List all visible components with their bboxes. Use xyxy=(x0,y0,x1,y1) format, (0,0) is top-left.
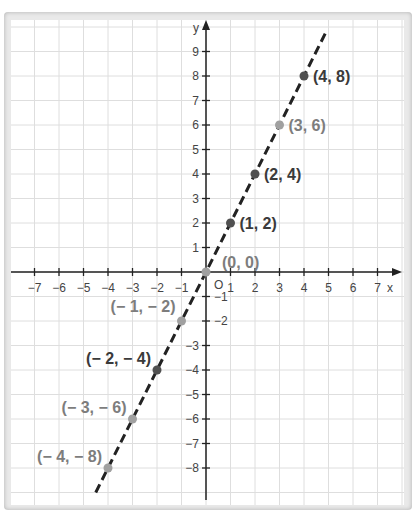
y-tick-label: −5 xyxy=(185,388,199,402)
data-point xyxy=(226,219,235,228)
data-point xyxy=(177,317,186,326)
x-tick-label: −5 xyxy=(77,281,91,295)
y-tick-label: 5 xyxy=(192,143,199,157)
x-tick-label: 2 xyxy=(252,281,259,295)
x-tick-label: 7 xyxy=(374,281,381,295)
x-tick-label: −4 xyxy=(101,281,115,295)
data-point xyxy=(275,121,284,130)
y-axis-label: y xyxy=(193,21,199,35)
point-label: (2, 4) xyxy=(264,166,301,183)
y-tick-label: −2 xyxy=(214,314,228,328)
y-tick-label: −4 xyxy=(185,363,199,377)
x-tick-label: 4 xyxy=(301,281,308,295)
x-tick-label: −2 xyxy=(150,281,164,295)
point-label: (3, 6) xyxy=(289,117,326,134)
point-label: (4, 8) xyxy=(313,68,350,85)
y-tick-label: −7 xyxy=(185,437,199,451)
point-label: (− 2, − 4) xyxy=(86,350,151,367)
x-tick-label: −1 xyxy=(175,281,189,295)
y-tick-label: −3 xyxy=(185,339,199,353)
data-point xyxy=(128,415,137,424)
x-tick-label: 6 xyxy=(350,281,357,295)
x-tick-label: −6 xyxy=(52,281,66,295)
point-label: (− 3, − 6) xyxy=(62,399,127,416)
x-tick-label: 5 xyxy=(325,281,332,295)
point-label: (− 1, − 2) xyxy=(111,298,176,315)
x-axis-label: x xyxy=(387,281,393,295)
data-point xyxy=(104,464,113,473)
x-tick-label: −3 xyxy=(126,281,140,295)
x-tick-label: 3 xyxy=(276,281,283,295)
y-tick-label: 9 xyxy=(192,45,199,59)
origin-label: O xyxy=(214,278,223,292)
y-tick-label: 8 xyxy=(192,69,199,83)
data-point xyxy=(153,366,162,375)
y-tick-label: 1 xyxy=(192,241,199,255)
y-tick-label: 4 xyxy=(192,167,199,181)
data-point xyxy=(251,170,260,179)
y-tick-label: 7 xyxy=(192,94,199,108)
point-label: (0, 0) xyxy=(222,254,259,271)
point-label: (1, 2) xyxy=(240,215,277,232)
y-tick-label: −8 xyxy=(185,461,199,475)
x-tick-label: −7 xyxy=(28,281,42,295)
y-tick-label: −6 xyxy=(185,412,199,426)
y-tick-label: 6 xyxy=(192,118,199,132)
y-tick-label: 3 xyxy=(192,192,199,206)
x-tick-label: 1 xyxy=(227,281,234,295)
data-point xyxy=(300,72,309,81)
plot-area xyxy=(11,20,404,505)
coordinate-plane: −7−6−5−4−3−2−11234567987654321−1−2−3−4−5… xyxy=(0,0,418,514)
data-point xyxy=(202,268,211,277)
point-label: (− 4, − 8) xyxy=(37,448,102,465)
y-tick-label: 2 xyxy=(192,216,199,230)
